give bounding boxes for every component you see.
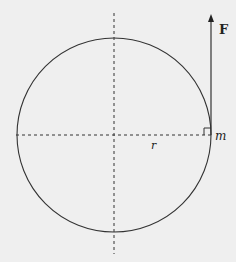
mass-label: m bbox=[215, 129, 226, 143]
radius-label: r bbox=[151, 139, 157, 152]
force-label: F bbox=[219, 22, 229, 37]
background bbox=[0, 0, 236, 262]
circular-motion-diagram: F m r bbox=[0, 0, 236, 262]
